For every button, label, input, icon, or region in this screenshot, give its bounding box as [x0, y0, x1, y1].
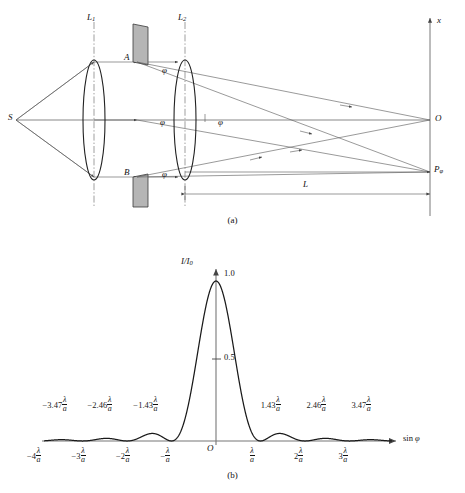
secondary-maximum-label: 2.46λa [306, 396, 326, 413]
secondary-maximum-label: −3.47λa [43, 396, 68, 413]
diffracted-ray-B1 [137, 120, 430, 177]
field-point-label: Pφ [434, 165, 443, 174]
lens1-label: L1 [87, 13, 95, 22]
lens2-label: L2 [178, 13, 186, 22]
secondary-maximum-label: −1.43λa [133, 396, 158, 413]
secondary-maximum-label: −2.46λa [88, 396, 113, 413]
panel-a-caption: (a) [0, 215, 465, 225]
origin-label: O [207, 444, 214, 453]
diffracted-ray-A2 [137, 62, 430, 172]
figure-container: S L1 L2 A B φ φ φ φ x O Pφ L (a) I/I0 1.… [0, 0, 465, 493]
x-tick-label: 3λa [339, 447, 348, 464]
y-value-half: 0.5 [224, 353, 235, 362]
x-tick-label: 2λa [294, 447, 303, 464]
x-tick-label: −λa [161, 447, 171, 464]
x-tick-label: −3λa [72, 447, 86, 464]
screen-axis-label: x [437, 16, 441, 25]
center-point-label: O [435, 114, 442, 123]
secondary-maximum-label: 3.47λa [351, 396, 371, 413]
panel-b-caption: (b) [0, 470, 465, 480]
optics-diagram [0, 0, 465, 230]
distance-L-label: L [303, 180, 308, 189]
x-tick-label: −2λa [116, 447, 130, 464]
source-label: S [8, 113, 13, 122]
x-tick-label: −4λa [27, 447, 41, 464]
angle-label-top: φ [162, 66, 167, 75]
slit-barrier-top [133, 24, 148, 65]
slit-barrier-bottom [133, 174, 148, 207]
intensity-chart [0, 255, 465, 485]
x-tick-label: λa [250, 447, 255, 464]
diffracted-ray-M1 [137, 120, 430, 172]
angle-label-mid-right: φ [218, 118, 223, 127]
angle-label-mid-left: φ [160, 118, 165, 127]
slit-top-point-label: A [124, 53, 130, 62]
sinc-squared-curve [44, 281, 392, 441]
diffracted-ray-A1 [137, 62, 430, 120]
secondary-maximum-label: 1.43λa [261, 396, 281, 413]
x-axis-label: sin φ [403, 434, 420, 443]
slit-bottom-point-label: B [124, 168, 130, 177]
y-axis-label: I/I0 [181, 257, 193, 266]
angle-label-bottom: φ [162, 170, 167, 179]
y-value-1: 1.0 [224, 269, 235, 278]
